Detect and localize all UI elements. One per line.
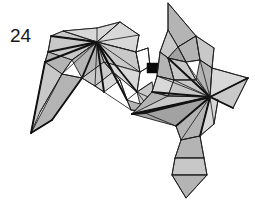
facet-after-tail-2: [172, 158, 207, 175]
origami-step-diagram: 24: [0, 0, 255, 205]
step-number: 24: [10, 25, 32, 46]
diagram-canvas: 24: [0, 0, 255, 205]
